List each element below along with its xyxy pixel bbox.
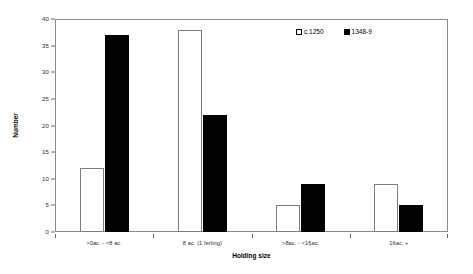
- legend-label: c.1250: [304, 28, 324, 35]
- y-axis-tick-label: 40: [42, 16, 49, 22]
- x-axis-tick-mark: [447, 234, 448, 238]
- y-axis-tick-label: 15: [42, 149, 49, 155]
- chart-legend: c.12501348-9: [296, 28, 372, 35]
- bar: [399, 205, 423, 232]
- bar: [203, 115, 227, 232]
- legend-entry: c.1250: [296, 28, 324, 35]
- x-axis-tick-mark: [252, 234, 253, 238]
- x-axis: >0ac. - <8 ac.8 ac. (1 ferling)>8ac. - <…: [55, 234, 448, 250]
- legend-swatch-icon: [344, 29, 350, 35]
- y-axis-tick-label: 20: [42, 123, 49, 129]
- x-axis-tick-label: >0ac. - <8 ac.: [86, 240, 122, 246]
- x-axis-tick-label: 16ac. +: [389, 240, 408, 246]
- x-axis-tick-mark: [350, 234, 351, 238]
- bar: [80, 168, 104, 232]
- bar-chart-figure: Number 0510152025303540 >0ac. - <8 ac.8 …: [0, 0, 473, 274]
- y-axis-tick-label: 35: [42, 43, 49, 49]
- bar: [105, 35, 129, 232]
- bar: [301, 184, 325, 232]
- y-axis-tick-label: 10: [42, 176, 49, 182]
- x-axis-tick-mark: [55, 234, 56, 238]
- x-axis-tick-mark: [153, 234, 154, 238]
- x-axis-title: Holding size: [55, 252, 448, 259]
- y-axis-tick-label: 5: [45, 202, 49, 208]
- y-axis-tick-label: 30: [42, 69, 49, 75]
- bar: [374, 184, 398, 232]
- bar: [178, 30, 202, 232]
- y-axis-tick-label: 0: [45, 229, 49, 235]
- bars-layer: [55, 19, 448, 232]
- y-axis-tick-label: 25: [42, 96, 49, 102]
- x-axis-tick-label: >8ac. - <16ac.: [282, 240, 319, 246]
- legend-swatch-icon: [296, 29, 302, 35]
- bar: [276, 205, 300, 232]
- legend-label: 1348-9: [352, 28, 372, 35]
- y-axis: 0510152025303540: [0, 19, 55, 232]
- legend-entry: 1348-9: [344, 28, 372, 35]
- x-axis-tick-label: 8 ac. (1 ferling): [183, 240, 222, 246]
